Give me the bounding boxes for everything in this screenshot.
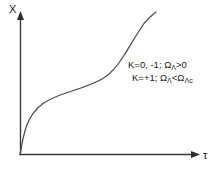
cosmology-scale-factor-figure: X τ K=0, -1; ΩΛ>0 K=+1; ΩΛ<ΩΛc: [0, 0, 219, 169]
annotation-1-relation: >0: [176, 59, 187, 70]
annotation-2-subscript: Λ: [167, 77, 172, 84]
horizontal-axis-arrow-icon: [191, 151, 200, 158]
annotation-block: K=0, -1; ΩΛ>0 K=+1; ΩΛ<ΩΛc: [128, 59, 214, 84]
annotation-2-subscript-2: Λc: [184, 77, 192, 84]
annotation-1-subscript: Λ: [171, 64, 176, 71]
y-axis-label: X: [9, 4, 16, 15]
annotation-2-prefix: K=+1;: [132, 72, 160, 83]
annotation-line-1: K=0, -1; ΩΛ>0: [128, 59, 214, 72]
annotation-1-prefix: K=0, -1;: [128, 59, 164, 70]
plot-canvas: [0, 0, 219, 169]
vertical-axis-arrow-icon: [17, 11, 24, 20]
annotation-line-2: K=+1; ΩΛ<ΩΛc: [128, 72, 214, 85]
x-axis-label: τ: [203, 150, 207, 161]
